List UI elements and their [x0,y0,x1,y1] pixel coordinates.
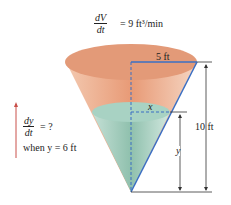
water-height-label: y [176,146,180,156]
water-radius-label: x [148,102,152,112]
dydt-question: = ? [40,122,53,132]
dydt-fraction: dy dt [23,115,34,138]
radius-label: 5 ft [156,52,170,62]
height-label: 10 ft [195,122,214,132]
condition-text: when y = 6 ft [23,143,76,153]
dVdt-fraction: dV dt [94,12,107,35]
cone-diagram [0,0,231,205]
dVdt-value: = 9 ft³/min [120,19,163,29]
